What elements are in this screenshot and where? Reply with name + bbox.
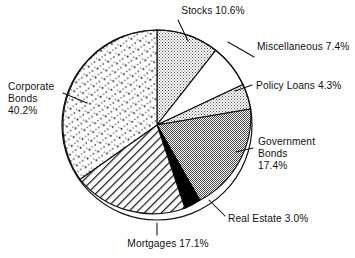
pie-slices: [63, 30, 251, 214]
pie-chart-figure: Stocks 10.6% Miscellaneous 7.4% Policy L…: [0, 0, 355, 258]
label-mortgages: Mortgages 17.1%: [127, 238, 208, 249]
label-corporate-bonds-line2: Bonds: [8, 93, 37, 104]
label-government-bonds-line1: Government: [258, 136, 315, 147]
label-miscellaneous: Miscellaneous 7.4%: [257, 41, 349, 52]
leader-line-real-estate: [209, 200, 225, 216]
label-government-bonds-line3: 17.4%: [258, 160, 287, 171]
label-stocks: Stocks 10.6%: [181, 5, 245, 16]
label-corporate-bonds-line3: 40.2%: [8, 105, 37, 116]
label-government-bonds-line2: Bonds: [258, 148, 287, 159]
pie-chart-svg: Stocks 10.6% Miscellaneous 7.4% Policy L…: [0, 0, 355, 258]
leader-line-miscellaneous: [228, 42, 254, 57]
label-policy-loans: Policy Loans 4.3%: [256, 80, 342, 91]
label-real-estate: Real Estate 3.0%: [228, 213, 308, 224]
label-corporate-bonds-line1: Corporate: [8, 81, 54, 92]
